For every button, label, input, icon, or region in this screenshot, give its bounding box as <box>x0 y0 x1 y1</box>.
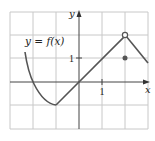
x-tick-label-1: 1 <box>100 86 105 97</box>
function-graph: y = f(x) y x 1 1 <box>0 0 155 141</box>
open-circle-marker <box>122 32 127 37</box>
x-axis-label: x <box>145 84 151 95</box>
filled-dot-marker <box>123 56 128 61</box>
function-label: y = f(x) <box>24 35 64 47</box>
rising-segment <box>56 37 124 105</box>
axes <box>10 14 146 129</box>
falling-segment <box>126 37 148 63</box>
y-axis-label: y <box>68 8 75 19</box>
function-curve <box>25 52 56 105</box>
y-axis-arrow-icon <box>77 10 82 17</box>
y-tick-label-1: 1 <box>69 53 74 64</box>
